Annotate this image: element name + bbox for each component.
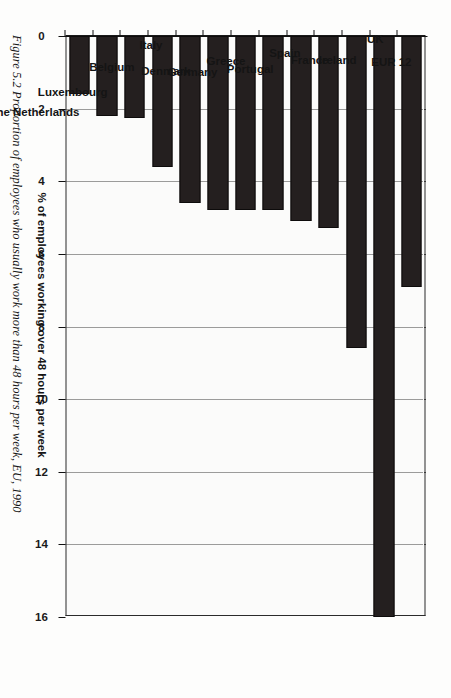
category-axis-tick	[341, 30, 342, 36]
category-axis-tick	[64, 30, 65, 36]
category-axis-tick	[313, 30, 314, 36]
bar	[401, 36, 421, 287]
value-axis-tick	[58, 327, 65, 328]
category-axis-tick	[202, 30, 203, 36]
bar	[179, 36, 199, 203]
category-axis-tick	[396, 30, 397, 36]
value-axis-tick	[58, 36, 65, 37]
category-axis-tick	[147, 30, 148, 36]
bar	[96, 36, 116, 116]
gridline	[65, 472, 425, 473]
value-axis-tick	[58, 617, 65, 618]
value-axis-tick	[58, 254, 65, 255]
category-axis-label: Denmark	[140, 65, 189, 77]
category-axis-label: EUR 12	[371, 56, 411, 68]
figure-caption: Figure 5.2 Proportion of employees who u…	[8, 35, 23, 675]
category-axis-tick	[175, 30, 176, 36]
gridline	[65, 327, 425, 328]
category-axis-tick	[286, 30, 287, 36]
category-axis-label: Italy	[139, 39, 162, 51]
category-axis-label: UK	[367, 33, 384, 45]
bar	[346, 36, 366, 348]
gridline	[65, 399, 425, 400]
category-axis-tick	[92, 30, 93, 36]
category-axis-label: Belgium	[89, 61, 134, 73]
value-axis-tick	[58, 544, 65, 545]
value-axis-tick	[58, 472, 65, 473]
rotated-figure-stage: 0246810121416 EUR 12UKIrelandFranceSpain…	[0, 0, 451, 698]
bar	[373, 36, 393, 617]
category-axis-tick	[258, 30, 259, 36]
chart-container: 0246810121416 EUR 12UKIrelandFranceSpain…	[0, 0, 451, 698]
figure-page: 0246810121416 EUR 12UKIrelandFranceSpain…	[0, 0, 451, 698]
gridline	[65, 544, 425, 545]
value-axis-tick	[58, 181, 65, 182]
value-axis-tick	[58, 399, 65, 400]
gridline	[65, 254, 425, 255]
bar	[152, 36, 172, 167]
plot-area: 0246810121416 EUR 12UKIrelandFranceSpain…	[65, 35, 425, 616]
category-axis-label: Spain	[269, 47, 300, 59]
category-axis-tick	[119, 30, 120, 36]
value-axis-title: % of employees working over 48 hours per…	[35, 35, 47, 615]
category-axis-tick	[230, 30, 231, 36]
